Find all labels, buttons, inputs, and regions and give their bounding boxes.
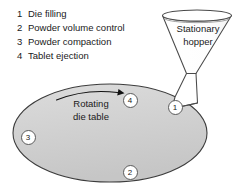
hopper-label-line2: hopper — [168, 36, 228, 49]
station-marker-4: 4 — [123, 93, 138, 108]
legend-item-1-number: 1 — [17, 7, 28, 21]
legend-item-1-label: Die filling — [28, 7, 67, 21]
die-table-label-line1: Rotating — [57, 98, 125, 111]
legend-item-4: 4 Tablet ejection — [17, 49, 167, 63]
hopper-label: Stationary hopper — [168, 23, 228, 48]
station-marker-2: 2 — [123, 165, 138, 180]
legend-item-3: 3 Powder compaction — [17, 35, 167, 49]
legend-item-4-label: Tablet ejection — [28, 49, 89, 63]
die-table-label-line2: die table — [57, 111, 125, 124]
legend-item-2-label: Powder volume control — [28, 21, 125, 35]
legend-item-2-number: 2 — [17, 21, 28, 35]
station-marker-1: 1 — [168, 100, 183, 115]
station-marker-3: 3 — [21, 130, 36, 145]
hopper-rim-ellipse — [163, 10, 232, 21]
legend-item-3-label: Powder compaction — [28, 35, 111, 49]
process-step-legend: 1 Die filling 2 Powder volume control 3 … — [17, 7, 167, 63]
die-table-label: Rotating die table — [57, 98, 125, 123]
hopper-label-line1: Stationary — [168, 23, 228, 36]
legend-item-3-number: 3 — [17, 35, 28, 49]
legend-item-4-number: 4 — [17, 49, 28, 63]
legend-item-2: 2 Powder volume control — [17, 21, 167, 35]
diagram-canvas: 1 Die filling 2 Powder volume control 3 … — [0, 0, 244, 192]
legend-item-1: 1 Die filling — [17, 7, 167, 21]
